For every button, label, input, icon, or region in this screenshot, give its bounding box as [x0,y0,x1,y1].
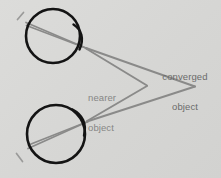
converged-object-label: converged object [152,51,218,133]
nearer-object-label: nearer object [88,72,116,154]
lower-eye-group [17,105,89,163]
convergence-diagram-figure: nearer object converged object [0,0,221,178]
nearer-object-label-line1: nearer [88,93,116,103]
converged-object-label-line1: converged [152,72,218,82]
lower-eye-lens-arc [73,110,85,136]
upper-eye-tick-icon [18,13,24,20]
converged-object-label-line2: object [152,102,218,112]
lower-eye-tick-icon [17,154,23,162]
upper-eye-group [18,9,88,63]
lower-eye-inner-ray-b [29,122,89,146]
nearer-object-label-line2: object [88,123,116,133]
